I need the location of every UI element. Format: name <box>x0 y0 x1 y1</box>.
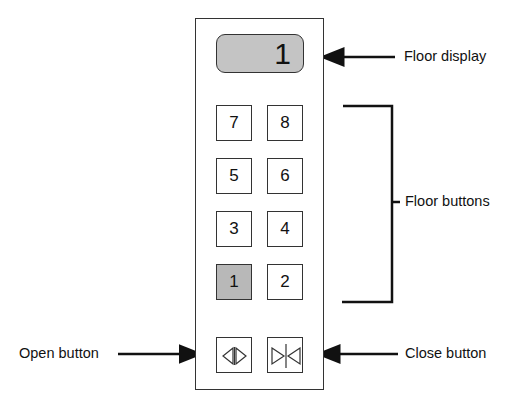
open-door-button[interactable] <box>216 337 252 373</box>
open-button-label: Open button <box>19 345 99 361</box>
floor-button-7[interactable]: 7 <box>216 105 252 141</box>
floor-display-label: Floor display <box>404 48 486 64</box>
floor-button-3[interactable]: 3 <box>216 211 252 247</box>
floor-buttons-label: Floor buttons <box>405 193 490 209</box>
floor-buttons-bracket <box>342 106 392 302</box>
close-button-label: Close button <box>405 345 486 361</box>
floor-button-5[interactable]: 5 <box>216 158 252 194</box>
elevator-panel <box>195 18 324 390</box>
floor-display-value: 1 <box>274 37 291 70</box>
close-door-button[interactable] <box>267 337 303 373</box>
floor-button-4[interactable]: 4 <box>267 211 303 247</box>
floor-button-1[interactable]: 1 <box>216 264 252 300</box>
door-close-icon <box>268 338 304 374</box>
floor-button-8[interactable]: 8 <box>267 105 303 141</box>
floor-button-2[interactable]: 2 <box>267 264 303 300</box>
floor-button-6[interactable]: 6 <box>267 158 303 194</box>
door-open-icon <box>217 338 253 374</box>
floor-display: 1 <box>216 34 304 73</box>
